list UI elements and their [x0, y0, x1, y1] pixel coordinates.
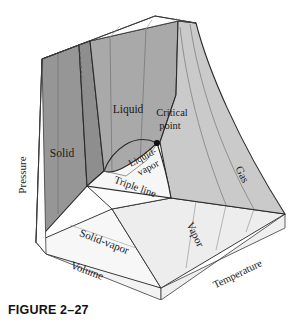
figure-caption: FIGURE 2–27	[8, 303, 89, 317]
pvt-surface-diagram: Pressure Volume Temperature Solid Liquid…	[0, 0, 293, 300]
point-label-critical-line2: point	[159, 120, 181, 131]
critical-point-marker	[154, 140, 160, 146]
axis-label-temperature: Temperature	[211, 257, 264, 290]
axis-label-pressure: Pressure	[16, 156, 28, 193]
point-label-critical-line1: Critical	[156, 107, 188, 118]
region-label-liquid: Liquid	[113, 103, 144, 116]
figure-container: Pressure Volume Temperature Solid Liquid…	[0, 0, 293, 324]
region-label-solid: Solid	[50, 147, 75, 159]
